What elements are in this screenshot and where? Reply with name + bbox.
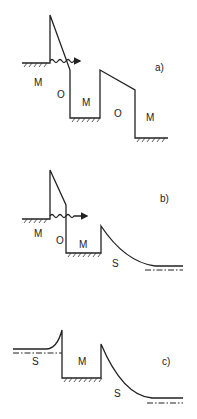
tunneling-arrow-icon bbox=[50, 215, 87, 218]
panel-c: S M S c) bbox=[13, 330, 183, 403]
panel-a: M O M O M a) bbox=[22, 15, 168, 142]
region-label: M bbox=[146, 112, 154, 123]
tunneling-arrow-icon bbox=[50, 60, 80, 63]
region-label: S bbox=[32, 356, 39, 367]
band-diagram-figure: M O M O M a) M O M S b) bbox=[0, 0, 197, 419]
region-label: M bbox=[34, 77, 42, 88]
region-label: O bbox=[114, 108, 122, 119]
region-label: M bbox=[82, 97, 90, 108]
region-label: O bbox=[56, 235, 64, 246]
panel-b: M O M S b) bbox=[22, 170, 183, 270]
region-label: M bbox=[79, 239, 87, 250]
region-label: O bbox=[57, 89, 65, 100]
region-label: S bbox=[114, 388, 121, 399]
region-label: M bbox=[34, 228, 42, 239]
region-label: S bbox=[112, 258, 119, 269]
panel-label: a) bbox=[155, 62, 164, 73]
region-label: M bbox=[78, 356, 86, 367]
band-profile-b bbox=[22, 170, 183, 266]
panel-label: b) bbox=[160, 193, 169, 204]
panel-label: c) bbox=[162, 356, 170, 367]
